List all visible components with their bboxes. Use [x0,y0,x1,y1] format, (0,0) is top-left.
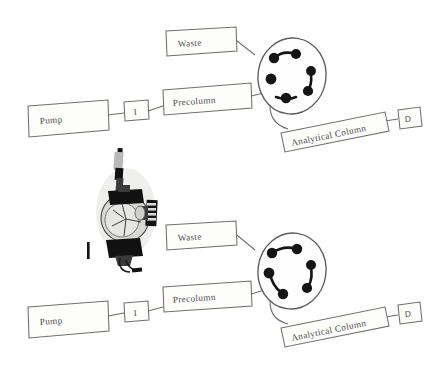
analytical-column-box[interactable]: Analytical Column [281,112,389,152]
valve-port-4 [303,86,313,96]
valve-body-outline [253,34,331,119]
waste-box[interactable]: Waste [166,27,237,56]
valve-port-5 [281,93,291,103]
photo-comb-tooth-1 [147,203,156,206]
conduit-injector-to-precolumn [148,106,163,111]
injector-box[interactable]: I [124,100,149,121]
photo-comb-tooth-3 [147,213,156,216]
waste-box-2[interactable]: Waste [166,221,237,250]
flow-schematic: Pump I Precolumn Waste Analytical Column [0,0,447,370]
valve-port-4b [302,283,312,293]
valve-port-5b [278,289,288,299]
six-port-valve-top[interactable] [253,34,331,119]
valve-port-6 [266,74,277,85]
pump-box-2[interactable]: Pump [28,301,109,338]
valve-port-1b [267,248,277,258]
injector-box-2[interactable]: I [124,301,149,322]
photo-bottom-fitting [106,238,143,258]
precolumn-box[interactable]: Precolumn [163,83,252,115]
injector-tick-marker [87,242,90,259]
photo-top-nut [118,185,130,192]
figure-canvas: Pump I Precolumn Waste Analytical Column [0,0,447,370]
top-panel: Pump I Precolumn Waste Analytical Column [28,27,422,152]
valve-port-6b [264,268,275,279]
photo-comb-tooth-2 [147,208,156,211]
detector-box-2[interactable]: D [398,302,422,324]
photo-bottom-nut [115,255,133,266]
bottom-panel: Pump I Precolumn Waste Analytical Column [28,148,422,347]
valve-port-3b [306,260,316,270]
waste-label-2: Waste [178,232,203,243]
conduit-pump-to-injector-2 [108,313,124,316]
pump-label: Pump [39,114,63,126]
detector-label-2: D [404,308,411,319]
pump-box[interactable]: Pump [28,100,109,137]
valve-port-2b [292,244,302,254]
six-port-valve-bottom[interactable] [253,229,331,314]
photo-ferrule-sleeve [113,152,123,171]
valve-port-3 [306,66,316,76]
conduit-injector-to-precolumn-2 [148,307,163,311]
photo-tail-fitting [132,267,142,272]
photo-shaft-collar [135,206,145,220]
detector-box[interactable]: D [398,107,422,129]
valve-port-2 [291,49,301,59]
conduit-pump-to-injector [108,113,124,115]
valve-port-1 [269,53,279,63]
waste-label: Waste [178,38,203,49]
analytical-column-box-2[interactable]: Analytical Column [281,307,389,347]
precolumn-box-2[interactable]: Precolumn [163,281,252,312]
pump-label-2: Pump [39,315,63,327]
photo-comb-tooth-4 [147,218,156,221]
photo-rotor-seal [105,203,139,237]
valve-photograph [87,148,158,273]
detector-label: D [404,113,411,124]
